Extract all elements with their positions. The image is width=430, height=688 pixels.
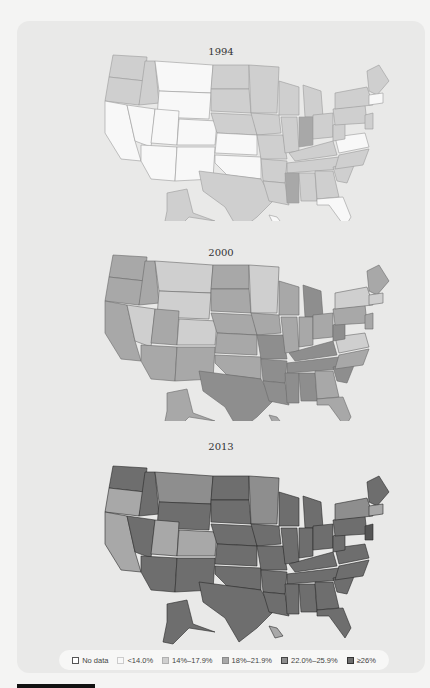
legend-item-gte26: ≥26% bbox=[347, 656, 376, 665]
us-map-2000 bbox=[17, 221, 425, 421]
figure-panel: 1994 bbox=[17, 21, 425, 673]
legend-swatch bbox=[117, 657, 124, 664]
us-map-1994 bbox=[17, 21, 425, 221]
figure-label-bar bbox=[17, 684, 95, 688]
legend-item-18-21: 18%–21.9% bbox=[222, 656, 272, 665]
legend-swatch bbox=[347, 657, 354, 664]
us-map-2013 bbox=[17, 417, 425, 647]
legend-item-no-data: No data bbox=[72, 656, 108, 665]
legend-item-lt14: <14.0% bbox=[117, 656, 153, 665]
map-legend: No data <14.0% 14%–17.9% 18%–21.9% 22.0%… bbox=[59, 650, 389, 670]
legend-label: 18%–21.9% bbox=[232, 656, 272, 665]
legend-swatch bbox=[281, 657, 288, 664]
legend-label: 14%–17.9% bbox=[172, 656, 212, 665]
legend-item-14-17: 14%–17.9% bbox=[162, 656, 212, 665]
legend-item-22-25: 22.0%–25.9% bbox=[281, 656, 338, 665]
legend-label: No data bbox=[82, 656, 108, 665]
legend-label: ≥26% bbox=[357, 656, 376, 665]
legend-label: <14.0% bbox=[127, 656, 153, 665]
legend-swatch bbox=[72, 657, 79, 664]
legend-swatch bbox=[222, 657, 229, 664]
legend-label: 22.0%–25.9% bbox=[291, 656, 338, 665]
legend-swatch bbox=[162, 657, 169, 664]
